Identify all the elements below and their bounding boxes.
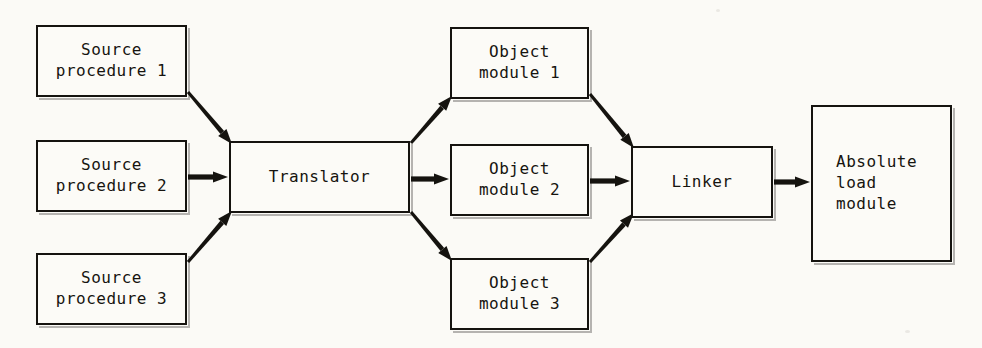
node-label-line: Object	[489, 159, 550, 180]
node-linker[interactable]: Linker	[631, 146, 773, 218]
arrow-edge-om1-linker	[589, 93, 634, 148]
node-label-line: Linker	[672, 172, 733, 193]
node-label-line: module	[836, 194, 897, 215]
node-label-line: Absolute	[836, 152, 917, 173]
node-label-line: procedure 2	[56, 176, 167, 197]
node-label-line: module 1	[479, 63, 560, 84]
node-label-line: procedure 1	[56, 61, 167, 82]
node-label-line: procedure 3	[56, 289, 167, 310]
node-absolute-load-module[interactable]: Absoluteloadmodule	[811, 105, 952, 262]
arrow-edge-translator-om3	[410, 211, 452, 261]
node-source-procedure-2[interactable]: Sourceprocedure 2	[36, 140, 187, 212]
paper-speck	[716, 9, 720, 12]
arrow-edge-sp1-translator	[187, 91, 232, 144]
arrow-edge-translator-om1	[410, 96, 452, 144]
paper-speck	[905, 330, 910, 333]
node-source-procedure-3[interactable]: Sourceprocedure 3	[36, 253, 187, 325]
node-label-line: Object	[489, 273, 550, 294]
node-label-line: Translator	[269, 167, 370, 188]
diagram-canvas: Sourceprocedure 1Sourceprocedure 2Source…	[0, 0, 982, 348]
arrow-edge-om2-linker	[590, 176, 630, 187]
node-label-line: Source	[81, 155, 142, 176]
arrow-edge-sp3-translator	[187, 211, 232, 263]
arrow-edge-translator-om2	[411, 174, 449, 185]
node-object-module-2[interactable]: Objectmodule 2	[450, 144, 589, 216]
node-source-procedure-1[interactable]: Sourceprocedure 1	[36, 25, 187, 97]
node-label-line: Object	[489, 42, 550, 63]
node-translator[interactable]: Translator	[229, 141, 410, 213]
node-label-line: module 3	[479, 294, 560, 315]
arrow-edge-linker-absolute	[774, 177, 810, 188]
arrow-edge-om3-linker	[589, 213, 634, 263]
arrow-edge-sp2-translator	[188, 172, 228, 183]
node-object-module-1[interactable]: Objectmodule 1	[450, 27, 589, 99]
node-label-line: Source	[81, 268, 142, 289]
node-object-module-3[interactable]: Objectmodule 3	[450, 258, 589, 330]
node-label-line: load	[836, 173, 877, 194]
node-label-line: module 2	[479, 180, 560, 201]
node-label-line: Source	[81, 40, 142, 61]
